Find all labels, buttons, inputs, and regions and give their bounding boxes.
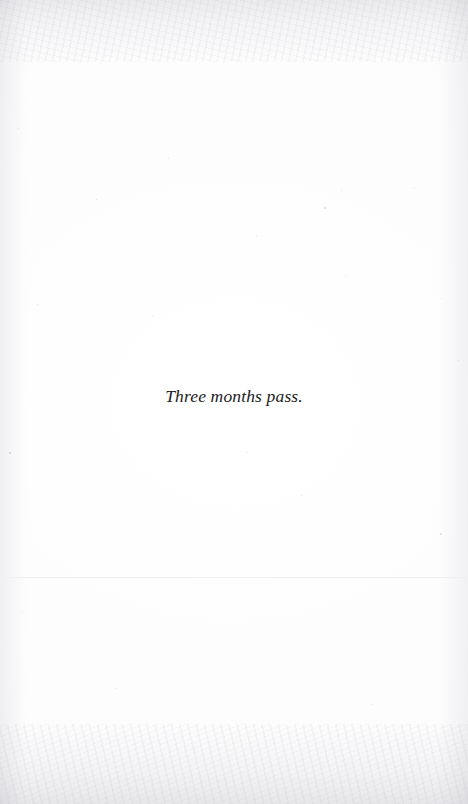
scan-texture-bottom-edge xyxy=(0,724,468,804)
paper-speck xyxy=(301,495,302,496)
page-text-block: Three months pass. xyxy=(0,385,468,408)
paper-speck xyxy=(414,188,415,189)
paper-speck xyxy=(345,275,346,276)
scan-texture-top-edge xyxy=(0,0,468,62)
paper-speck xyxy=(372,704,373,705)
paper-speck xyxy=(116,688,117,689)
paper-speck xyxy=(152,316,153,317)
paper-speck xyxy=(37,304,38,305)
paper-speck xyxy=(458,360,459,361)
horizontal-rule xyxy=(0,577,468,578)
paper-speck xyxy=(256,236,257,237)
scanned-page: Three months pass. xyxy=(0,0,468,804)
paper-speck xyxy=(22,611,23,612)
paper-speck xyxy=(341,190,342,191)
paper-speck xyxy=(247,452,248,453)
body-text-line: Three months pass. xyxy=(165,385,303,408)
paper-speck xyxy=(440,533,442,535)
paper-speck xyxy=(441,298,442,299)
paper-speck xyxy=(168,158,169,159)
paper-speck xyxy=(96,199,97,200)
paper-speck xyxy=(9,452,11,454)
paper-speck xyxy=(18,128,19,129)
paper-speck xyxy=(324,207,326,209)
